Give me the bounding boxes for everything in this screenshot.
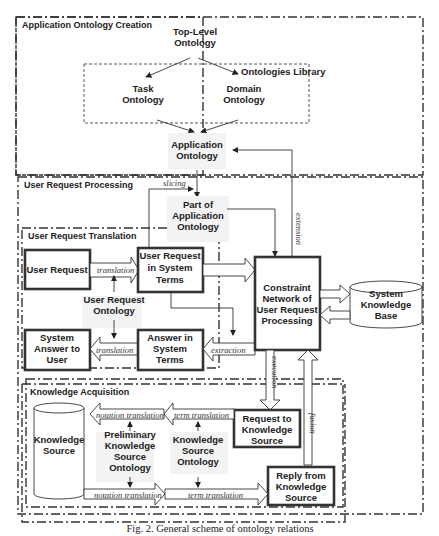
svg-text:Ontology: Ontology xyxy=(176,150,218,161)
svg-text:Knowledge: Knowledge xyxy=(34,434,85,445)
svg-text:Knowledge: Knowledge xyxy=(242,424,293,435)
arrow-kb-to-constraint xyxy=(320,306,350,324)
label-translation-top: translation xyxy=(97,265,134,275)
label-term-translation-bottom: term translation xyxy=(188,490,243,500)
ontology-relations-diagram: Application Ontology Creation User Reque… xyxy=(0,0,439,536)
svg-text:Ontology: Ontology xyxy=(177,221,219,232)
node-knowledge-source: Knowledge Source xyxy=(34,403,85,499)
node-application-ontology: Application Ontology xyxy=(171,139,223,161)
svg-text:Knowledge: Knowledge xyxy=(105,440,156,451)
svg-text:Knowledge: Knowledge xyxy=(173,434,224,445)
label-notation-translation-top: notation translation xyxy=(96,410,164,420)
label-slicing: slicing xyxy=(163,178,186,188)
svg-text:System: System xyxy=(153,343,187,354)
arrow-task-to-application xyxy=(157,120,194,132)
svg-text:System: System xyxy=(40,332,74,343)
svg-text:Request to: Request to xyxy=(242,413,291,424)
arrow-request-to-constraint xyxy=(203,258,255,282)
group-label-user-request-translation: User Request Translation xyxy=(28,231,137,241)
svg-text:Top-Level: Top-Level xyxy=(173,26,217,37)
node-top-level-ontology: Top-Level Ontology xyxy=(173,26,217,48)
arrow-constraint-to-kb xyxy=(320,285,350,303)
svg-text:Knowledge: Knowledge xyxy=(361,299,412,310)
svg-text:User Request: User Request xyxy=(83,294,145,305)
svg-text:Reply from: Reply from xyxy=(276,470,326,481)
label-extension: extension xyxy=(294,213,304,245)
node-task-ontology: Task Ontology xyxy=(122,83,164,105)
svg-text:System: System xyxy=(369,288,403,299)
group-label-knowledge-acquisition: Knowledge Acquisition xyxy=(30,387,129,397)
label-extraction: extraction xyxy=(211,345,245,355)
svg-text:Ontology: Ontology xyxy=(223,94,265,105)
svg-text:Ontology: Ontology xyxy=(109,462,151,473)
user-request-label: User Request xyxy=(26,264,88,275)
arrow-request-to-extraction xyxy=(171,292,233,335)
svg-text:User Request: User Request xyxy=(139,250,201,261)
arrow-top-to-task xyxy=(146,58,190,77)
arrow-part-to-constraint xyxy=(227,209,275,256)
svg-text:Processing: Processing xyxy=(261,315,312,326)
svg-text:Application: Application xyxy=(171,139,223,150)
svg-text:Ontology: Ontology xyxy=(122,94,164,105)
svg-text:Part of: Part of xyxy=(183,199,214,210)
constraint-network-label: Constraint Network of User Request Proce… xyxy=(256,282,318,326)
svg-text:Source: Source xyxy=(251,435,283,446)
svg-text:Knowledge: Knowledge xyxy=(276,481,327,492)
svg-text:Source: Source xyxy=(285,492,317,503)
svg-text:Source: Source xyxy=(43,445,75,456)
svg-text:Base: Base xyxy=(375,310,398,321)
label-translation-bottom: translation xyxy=(96,345,133,355)
label-notation-translation-bottom: notation translation xyxy=(94,490,162,500)
svg-text:User: User xyxy=(46,354,67,365)
arrow-domain-to-application xyxy=(201,120,238,132)
svg-text:Network of: Network of xyxy=(262,293,312,304)
svg-text:Source: Source xyxy=(114,451,146,462)
svg-text:Answer in: Answer in xyxy=(147,332,193,343)
svg-text:Task: Task xyxy=(133,83,155,94)
svg-text:Ontology: Ontology xyxy=(177,456,219,467)
node-domain-ontology: Domain Ontology xyxy=(223,83,265,105)
svg-text:Source: Source xyxy=(182,445,214,456)
svg-text:Answer to: Answer to xyxy=(34,343,80,354)
group-label-app-ontology-creation: Application Ontology Creation xyxy=(22,20,152,30)
arrow-extension xyxy=(233,150,292,258)
svg-text:Ontology: Ontology xyxy=(93,305,135,316)
figure-caption: Fig. 2. General scheme of ontology relat… xyxy=(126,523,313,534)
ontologies-library-label: Ontologies Library xyxy=(241,66,326,77)
label-term-translation-top: term translation xyxy=(174,410,229,420)
group-label-user-request-processing: User Request Processing xyxy=(24,180,133,190)
svg-text:User Request: User Request xyxy=(256,304,318,315)
svg-text:Terms: Terms xyxy=(156,354,184,365)
svg-text:Constraint: Constraint xyxy=(263,282,311,293)
label-fusion: fusion xyxy=(308,413,318,434)
svg-text:Terms: Terms xyxy=(156,274,184,285)
label-execution: execution xyxy=(270,356,280,389)
svg-text:in System: in System xyxy=(148,262,193,273)
arrow-top-to-library xyxy=(198,58,238,74)
svg-text:Domain: Domain xyxy=(227,83,262,94)
svg-text:Ontology: Ontology xyxy=(174,37,216,48)
node-system-knowledge-base: System Knowledge Base xyxy=(350,281,422,328)
svg-text:Application: Application xyxy=(172,210,224,221)
